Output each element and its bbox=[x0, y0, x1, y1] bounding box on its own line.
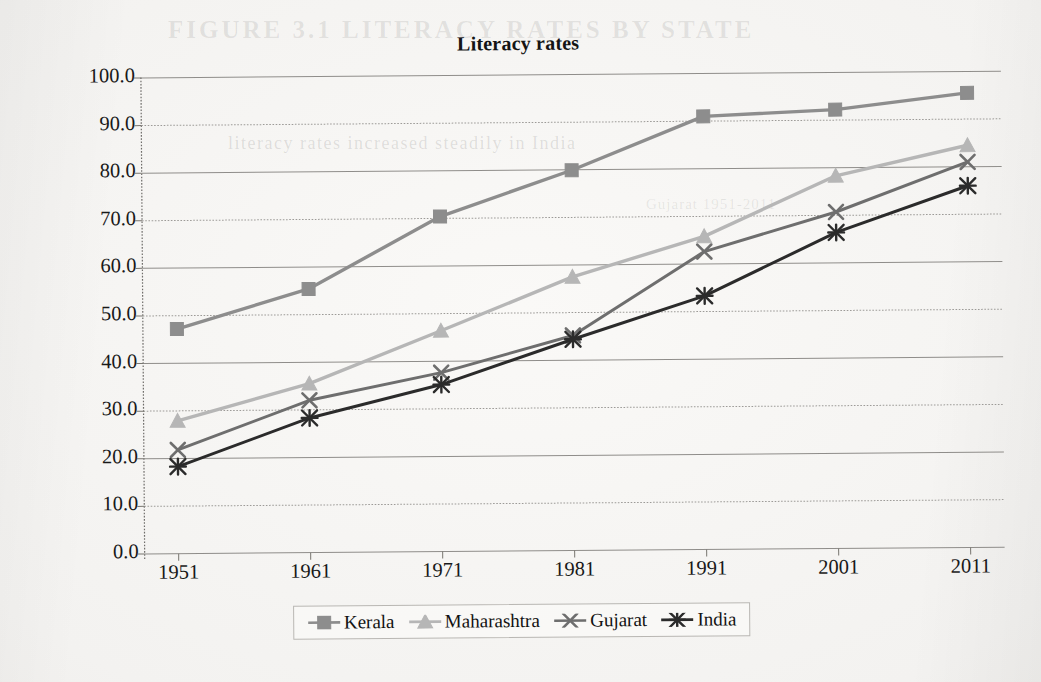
gridline bbox=[143, 309, 1003, 316]
x-tick-label: 1991 bbox=[647, 556, 767, 580]
legend-marker-triangle-icon bbox=[408, 615, 442, 629]
x-tick-label: 1971 bbox=[383, 558, 503, 582]
x-tick-label: 1961 bbox=[251, 559, 371, 583]
gridline bbox=[141, 119, 1001, 126]
data-point-marker bbox=[171, 443, 185, 457]
y-tick-label: 100.0 bbox=[39, 64, 135, 88]
y-tick-label: 30.0 bbox=[41, 397, 137, 421]
series-india bbox=[168, 178, 978, 475]
data-point-marker bbox=[170, 322, 183, 335]
data-point-marker bbox=[433, 377, 449, 393]
gridline bbox=[144, 500, 1004, 507]
y-tick-label: 80.0 bbox=[40, 159, 136, 183]
data-point-marker bbox=[302, 410, 318, 426]
chart-canvas bbox=[141, 71, 1005, 554]
legend-label: Maharashtra bbox=[445, 610, 540, 633]
x-tick-label: 2011 bbox=[911, 554, 1031, 578]
y-tick-label: 60.0 bbox=[40, 254, 136, 278]
data-point-marker bbox=[828, 225, 844, 241]
x-tick-label: 1951 bbox=[119, 560, 239, 584]
data-point-marker bbox=[433, 210, 446, 223]
legend-label: Gujarat bbox=[590, 609, 647, 631]
y-tick-label: 50.0 bbox=[41, 302, 137, 326]
data-point-marker bbox=[565, 164, 578, 177]
y-tick-label: 10.0 bbox=[42, 492, 138, 516]
legend-marker-x-cross-icon bbox=[553, 613, 587, 627]
gridline bbox=[141, 71, 1001, 78]
literacy-rates-figure: Literacy rates 0.010.020.030.040.050.060… bbox=[0, 0, 1041, 682]
y-axis-line bbox=[141, 77, 145, 559]
data-point-marker bbox=[302, 282, 315, 295]
data-point-marker bbox=[697, 288, 713, 304]
data-point-marker bbox=[565, 331, 581, 347]
data-point-marker bbox=[317, 616, 330, 629]
legend-label: Kerala bbox=[344, 611, 395, 633]
legend-item-maharashtra[interactable]: Maharashtra bbox=[408, 610, 540, 633]
data-point-marker bbox=[170, 459, 186, 475]
legend-marker-asterisk-icon bbox=[660, 613, 694, 627]
legend-item-kerala[interactable]: Kerala bbox=[307, 611, 395, 634]
data-point-marker bbox=[829, 103, 842, 116]
plot-area bbox=[141, 71, 1005, 554]
chart-legend: KeralaMaharashtraGujaratIndia bbox=[293, 602, 750, 640]
y-tick-label: 40.0 bbox=[41, 350, 137, 374]
y-tick-label: 70.0 bbox=[40, 207, 136, 231]
legend-marker-square-icon bbox=[307, 615, 341, 629]
data-point-marker bbox=[960, 138, 975, 152]
gridline bbox=[142, 262, 1002, 269]
legend-item-gujarat[interactable]: Gujarat bbox=[553, 609, 647, 632]
gridline bbox=[144, 452, 1004, 459]
legend-item-india[interactable]: India bbox=[660, 608, 736, 631]
x-axis: 1951196119711981199120012011 bbox=[145, 554, 1005, 601]
series-line bbox=[175, 93, 969, 329]
x-tick-label: 1981 bbox=[515, 557, 635, 581]
series-gujarat bbox=[169, 155, 977, 457]
gridline bbox=[144, 404, 1004, 411]
y-tick-label: 20.0 bbox=[42, 445, 138, 469]
series-line bbox=[176, 186, 970, 467]
y-tick-label: 90.0 bbox=[39, 112, 135, 136]
legend-label: India bbox=[697, 608, 736, 630]
series-maharashtra bbox=[168, 138, 977, 428]
gridline bbox=[143, 357, 1003, 364]
chart-title: Literacy rates bbox=[0, 28, 1039, 59]
series-kerala bbox=[169, 86, 976, 335]
x-tick-label: 2001 bbox=[779, 555, 899, 579]
series-line bbox=[176, 162, 970, 450]
data-point-marker bbox=[697, 110, 710, 123]
data-point-marker bbox=[669, 613, 685, 627]
data-point-marker bbox=[961, 86, 974, 99]
data-point-marker bbox=[960, 178, 976, 194]
